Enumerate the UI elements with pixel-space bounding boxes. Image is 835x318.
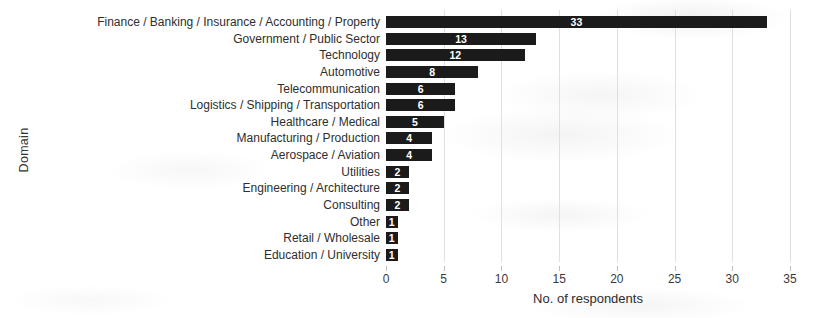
bar-row: Healthcare / Medical5 <box>0 116 444 128</box>
x-tick-label: 35 <box>783 272 796 286</box>
category-label: Healthcare / Medical <box>0 116 380 128</box>
bar-value-label: 33 <box>571 16 583 28</box>
gridline <box>444 10 445 262</box>
category-label: Aerospace / Aviation <box>0 149 380 161</box>
category-label: Technology <box>0 49 380 61</box>
bar-value-label: 2 <box>395 166 401 178</box>
bar: 2 <box>386 166 409 178</box>
bar-value-label: 8 <box>429 66 435 78</box>
bar-row: Manufacturing / Production4 <box>0 132 432 144</box>
bar: 2 <box>386 182 409 194</box>
bar: 4 <box>386 149 432 161</box>
x-tick-mark <box>790 266 791 271</box>
bar-row: Aerospace / Aviation4 <box>0 149 432 161</box>
gridline <box>675 10 676 262</box>
bar-value-label: 1 <box>389 249 395 261</box>
bar-row: Utilities2 <box>0 166 409 178</box>
bar: 13 <box>386 33 536 45</box>
category-label: Other <box>0 216 380 228</box>
bar: 33 <box>386 16 767 28</box>
bar: 12 <box>386 49 525 61</box>
bar-value-label: 13 <box>455 33 467 45</box>
x-tick-mark <box>617 266 618 271</box>
bar-row: Finance / Banking / Insurance / Accounti… <box>0 16 767 28</box>
bar-row: Automotive8 <box>0 66 478 78</box>
x-tick-mark <box>732 266 733 271</box>
bar: 2 <box>386 199 409 211</box>
category-label: Education / University <box>0 249 380 261</box>
category-label: Engineering / Architecture <box>0 182 380 194</box>
bar: 8 <box>386 66 478 78</box>
bar: 1 <box>386 249 398 261</box>
bar-row: Government / Public Sector13 <box>0 33 536 45</box>
gridline <box>559 10 560 262</box>
bar: 1 <box>386 216 398 228</box>
bar: 1 <box>386 232 398 244</box>
category-label: Retail / Wholesale <box>0 232 380 244</box>
bar-value-label: 4 <box>406 149 412 161</box>
category-label: Logistics / Shipping / Transportation <box>0 99 380 111</box>
bar-value-label: 5 <box>412 116 418 128</box>
bar-value-label: 2 <box>395 182 401 194</box>
x-tick-mark <box>386 266 387 271</box>
gridline <box>790 10 791 262</box>
bar: 6 <box>386 83 455 95</box>
bar-row: Education / University1 <box>0 249 398 261</box>
bar-value-label: 12 <box>449 49 461 61</box>
bar-row: Logistics / Shipping / Transportation6 <box>0 99 455 111</box>
bar-value-label: 6 <box>418 99 424 111</box>
x-axis-title: No. of respondents <box>386 291 790 306</box>
category-label: Government / Public Sector <box>0 33 380 45</box>
x-tick-mark <box>444 266 445 271</box>
x-tick-mark <box>501 266 502 271</box>
x-tick-mark <box>559 266 560 271</box>
bar-chart-figure: Domain Finance / Banking / Insurance / A… <box>0 0 835 318</box>
category-label: Telecommunication <box>0 83 380 95</box>
gridline <box>501 10 502 262</box>
bar-row: Retail / Wholesale1 <box>0 232 398 244</box>
bar-row: Engineering / Architecture2 <box>0 182 409 194</box>
x-tick-label: 25 <box>668 272 681 286</box>
x-tick-label: 15 <box>552 272 565 286</box>
category-label: Consulting <box>0 199 380 211</box>
x-tick-label: 30 <box>726 272 739 286</box>
bar-value-label: 4 <box>406 132 412 144</box>
bar-row: Telecommunication6 <box>0 83 455 95</box>
category-label: Utilities <box>0 166 380 178</box>
bar: 5 <box>386 116 444 128</box>
x-tick-label: 0 <box>383 272 390 286</box>
x-tick-label: 10 <box>495 272 508 286</box>
bar-value-label: 1 <box>389 216 395 228</box>
x-tick-label: 5 <box>440 272 447 286</box>
x-tick-label: 20 <box>610 272 623 286</box>
category-label: Finance / Banking / Insurance / Accounti… <box>0 16 380 28</box>
bar-value-label: 2 <box>395 199 401 211</box>
category-label: Manufacturing / Production <box>0 132 380 144</box>
bar-row: Consulting2 <box>0 199 409 211</box>
bar: 4 <box>386 132 432 144</box>
bar: 6 <box>386 99 455 111</box>
category-label: Automotive <box>0 66 380 78</box>
bar-row: Technology12 <box>0 49 525 61</box>
gridline <box>617 10 618 262</box>
bar-value-label: 6 <box>418 83 424 95</box>
gridline <box>732 10 733 262</box>
bar-row: Other1 <box>0 216 398 228</box>
x-tick-mark <box>675 266 676 271</box>
bar-value-label: 1 <box>389 232 395 244</box>
